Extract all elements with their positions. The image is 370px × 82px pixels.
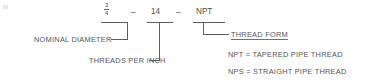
leader-line-thread-form (193, 23, 229, 35)
label-thread-form: THREAD FORM (231, 31, 288, 40)
legend-item-npt: NPT = TAPERED PIPE THREAD (228, 51, 343, 58)
leader-line-threads-per-inch (147, 23, 173, 61)
pipe-thread-designation-diagram: 3 4 – 14 – NPT NOMINAL DIAMETER THREADS … (0, 0, 370, 82)
label-nominal-diameter: NOMINAL DIAMETER (34, 36, 112, 43)
legend-item-nps: NPS = STRAIGHT PIPE THREAD (228, 68, 347, 75)
label-threads-per-inch: THREADS PER INCH (89, 57, 166, 64)
